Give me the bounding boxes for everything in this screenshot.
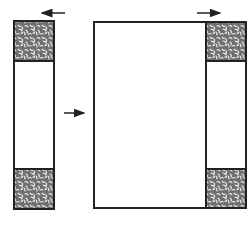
left-top-shaded-block	[14, 21, 54, 61]
large-rectangle	[94, 22, 206, 208]
right-bottom-shaded-block	[206, 169, 246, 208]
left-bottom-shaded-block	[14, 169, 54, 209]
left-column-assembly	[14, 21, 54, 209]
right-top-shaded-block	[206, 22, 246, 61]
right-assembly	[94, 22, 246, 208]
diagram-canvas	[0, 0, 249, 230]
